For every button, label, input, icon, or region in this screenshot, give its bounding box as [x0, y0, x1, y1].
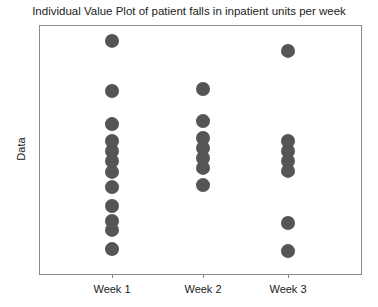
data-point	[196, 178, 210, 192]
x-tick-label: Week 1	[93, 283, 130, 295]
data-points	[105, 34, 295, 258]
data-point	[105, 223, 119, 237]
data-point	[105, 165, 119, 179]
data-point	[105, 199, 119, 213]
data-point	[281, 44, 295, 58]
data-point	[105, 242, 119, 256]
data-point	[105, 117, 119, 131]
data-point	[281, 216, 295, 230]
data-point	[105, 180, 119, 194]
data-point	[196, 82, 210, 96]
x-tick-label: Week 2	[184, 283, 221, 295]
data-point	[281, 244, 295, 258]
data-point	[105, 84, 119, 98]
plot-area	[0, 0, 378, 307]
x-tick-label: Week 3	[269, 283, 306, 295]
data-point	[196, 114, 210, 128]
data-point	[196, 161, 210, 175]
data-point	[281, 164, 295, 178]
data-point	[105, 34, 119, 48]
